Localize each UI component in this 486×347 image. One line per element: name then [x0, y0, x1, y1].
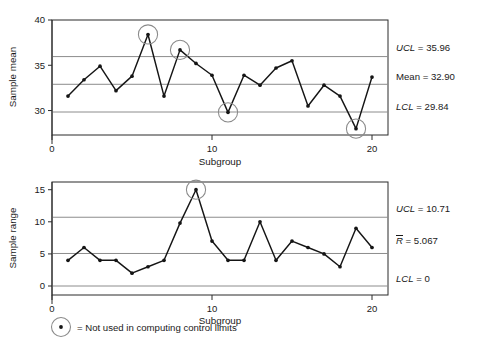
data-point [146, 265, 150, 269]
y-tick-label: 15 [34, 184, 45, 195]
data-point [306, 246, 310, 250]
r-lcl-label: LCL = 0 [396, 273, 430, 284]
x-tick-label: 0 [49, 143, 54, 154]
data-point [146, 33, 150, 37]
r-ucl-label: UCL = 10.71 [396, 203, 450, 214]
data-point [226, 111, 230, 115]
legend-dot-icon [59, 325, 63, 329]
data-point [226, 258, 230, 262]
data-point [194, 188, 198, 192]
data-point [274, 66, 278, 70]
data-point [354, 127, 358, 131]
xbar-gridlines [52, 57, 388, 112]
data-point [354, 226, 358, 230]
data-point [194, 62, 198, 66]
data-point [370, 246, 374, 250]
data-point [98, 64, 102, 68]
xbar-mean-label: Mean = 32.90 [396, 71, 455, 82]
r-chart-group: 051015 01020 Sample range Subgroup UCL =… [7, 180, 450, 326]
y-tick-label: 10 [34, 216, 45, 227]
data-point [178, 221, 182, 225]
xbar-highlight-circles [138, 25, 365, 138]
y-tick-label: 0 [40, 280, 45, 291]
r-x-axis-ticks: 01020 [49, 295, 377, 314]
xbar-chart-group: 303540 01020 Sample mean Subgroup UCL = … [7, 14, 455, 167]
data-point [210, 239, 214, 243]
data-point [130, 74, 134, 78]
x-tick-label: 10 [207, 143, 218, 154]
r-rbar-label: R = 5.067 [396, 235, 438, 246]
data-point [258, 220, 262, 224]
data-point [66, 94, 70, 98]
data-point [66, 258, 70, 262]
xbar-x-axis-ticks: 01020 [49, 135, 377, 154]
r-series-line [68, 190, 372, 273]
data-point [338, 265, 342, 269]
data-point [290, 239, 294, 243]
r-y-axis-title: Sample range [7, 207, 18, 269]
data-point [258, 83, 262, 87]
data-point [82, 78, 86, 82]
r-plot-frame [52, 182, 388, 295]
xbar-data-markers [66, 33, 374, 131]
data-point [210, 73, 214, 77]
control-charts-svg: 303540 01020 Sample mean Subgroup UCL = … [0, 0, 486, 347]
data-point [162, 94, 166, 98]
data-point [162, 258, 166, 262]
xbar-y-axis-ticks: 303540 [34, 14, 52, 144]
data-point [242, 258, 246, 262]
data-point [114, 89, 118, 93]
x-tick-label: 10 [207, 303, 218, 314]
data-point [370, 75, 374, 79]
x-tick-label: 0 [49, 303, 54, 314]
data-point [130, 271, 134, 275]
r-rbar-label-group: R = 5.067 [396, 235, 438, 246]
xbar-series-line [68, 34, 372, 128]
data-point [322, 252, 326, 256]
data-point [274, 258, 278, 262]
y-tick-label: 30 [34, 105, 45, 116]
data-point [82, 246, 86, 250]
legend-description: = Not used in computing control limits [77, 322, 237, 333]
data-point [322, 83, 326, 87]
data-point [178, 48, 182, 52]
xbar-y-axis-title: Sample mean [7, 47, 18, 107]
data-point [242, 73, 246, 77]
xbar-x-axis-title: Subgroup [199, 156, 242, 167]
data-point [114, 258, 118, 262]
control-chart-figure: 303540 01020 Sample mean Subgroup UCL = … [0, 0, 486, 347]
xbar-lcl-label: LCL = 29.84 [396, 101, 449, 112]
y-tick-label: 40 [34, 14, 45, 25]
data-point [98, 258, 102, 262]
data-point [290, 59, 294, 63]
y-tick-label: 35 [34, 60, 45, 71]
x-tick-label: 20 [367, 143, 378, 154]
data-point [306, 104, 310, 108]
r-y-axis-ticks: 051015 [34, 182, 52, 304]
y-tick-label: 5 [40, 248, 45, 259]
x-tick-label: 20 [367, 303, 378, 314]
xbar-ucl-label: UCL = 35.96 [396, 42, 450, 53]
data-point [338, 94, 342, 98]
r-data-markers [66, 188, 374, 275]
